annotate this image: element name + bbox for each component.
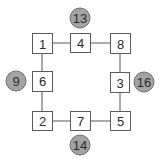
circle-label: 16 bbox=[137, 75, 151, 90]
circle-label: 14 bbox=[73, 138, 87, 153]
box-label: 2 bbox=[39, 114, 46, 129]
sum-circle-bottom: 14 bbox=[70, 135, 90, 155]
box-node-3: 3 bbox=[111, 73, 130, 93]
circle-label: 9 bbox=[12, 74, 19, 89]
box-node-1: 1 bbox=[33, 34, 53, 54]
sum-circle-top: 13 bbox=[70, 8, 90, 28]
sum-circle-left: 9 bbox=[6, 71, 26, 91]
box-label: 4 bbox=[77, 36, 84, 51]
box-label: 3 bbox=[116, 76, 123, 91]
box-node-4: 4 bbox=[71, 34, 91, 53]
box-label: 7 bbox=[77, 114, 84, 129]
box-node-6: 6 bbox=[33, 72, 53, 92]
diagram-canvas: 1 4 8 6 3 2 7 5 13 9 16 14 bbox=[0, 0, 164, 159]
box-node-5: 5 bbox=[111, 112, 131, 131]
circle-label: 13 bbox=[73, 11, 87, 26]
box-node-2: 2 bbox=[33, 112, 53, 131]
box-label: 5 bbox=[117, 114, 124, 129]
box-label: 1 bbox=[39, 37, 46, 52]
box-node-8: 8 bbox=[111, 34, 131, 54]
box-label: 8 bbox=[117, 37, 124, 52]
box-label: 6 bbox=[39, 74, 46, 89]
box-node-7: 7 bbox=[71, 112, 91, 131]
sum-circle-right: 16 bbox=[134, 72, 154, 92]
